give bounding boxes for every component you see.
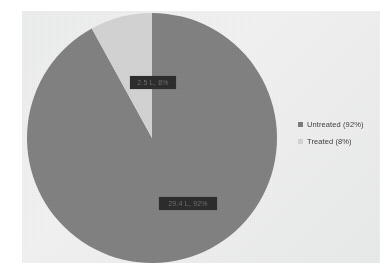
legend-swatch-icon-treated — [298, 139, 303, 144]
pie-chart-region: 2.5 L, 8% 29.4 L, 92% — [22, 11, 312, 263]
legend: Untreated (92%) Treated (8%) — [298, 119, 378, 153]
data-label-untreated: 29.4 L, 92% — [159, 197, 217, 210]
data-label-treated: 2.5 L, 8% — [130, 76, 176, 89]
legend-label-untreated: Untreated (92%) — [307, 120, 364, 129]
figure-plot-area: 2.5 L, 8% 29.4 L, 92% Untreated (92%) Tr… — [22, 11, 380, 263]
pie-graphic — [26, 12, 278, 264]
legend-item-treated[interactable]: Treated (8%) — [298, 136, 378, 147]
legend-label-treated: Treated (8%) — [307, 137, 352, 146]
legend-swatch-icon-untreated — [298, 122, 303, 127]
legend-item-untreated[interactable]: Untreated (92%) — [298, 119, 378, 130]
pie-chart-screenshot: 2.5 L, 8% 29.4 L, 92% Untreated (92%) Tr… — [0, 0, 391, 274]
